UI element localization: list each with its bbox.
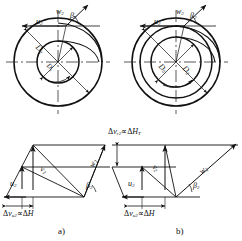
impeller-a-w2-label: w2 bbox=[56, 8, 64, 17]
velocity-triangle-a bbox=[4, 145, 110, 209]
triangle-b-edge-left bbox=[112, 167, 124, 197]
impeller-b-u2-label: u2 bbox=[154, 18, 160, 27]
triangle-a-u2-label: u2 bbox=[10, 180, 16, 189]
impeller-b-beta2-label: β2 bbox=[190, 12, 196, 21]
impeller-b-tip-radius bbox=[176, 26, 184, 62]
impeller-diagram-a bbox=[6, 5, 110, 114]
triangle-a-beta2-label: β2 bbox=[86, 182, 92, 191]
triangle-b-u2-label: u2 bbox=[128, 180, 134, 189]
impeller-a-beta2-label: β2 bbox=[70, 12, 76, 21]
impeller-b-blade-curve bbox=[176, 37, 215, 62]
velocity-triangle-b bbox=[112, 144, 238, 209]
panel-caption-b: b) bbox=[176, 226, 184, 236]
impeller-a-u2-label: u2 bbox=[36, 18, 42, 27]
radial-delta-label: Δvr2∝ΔHT bbox=[108, 128, 141, 137]
triangle-a-v2-vector bbox=[22, 167, 84, 197]
impeller-diagram-b bbox=[124, 5, 228, 114]
triangle-b-beta-arc bbox=[189, 184, 192, 192]
impeller-b-w2-label: w2 bbox=[176, 8, 184, 17]
triangle-b-delta-label: Δvu2∝ΔH bbox=[124, 210, 155, 219]
figure-root: u2 w2 β2 D2 D1 u2 w2 β2 D0 D2 u2 v2 w2 β… bbox=[0, 0, 242, 241]
triangle-a-delta-label: Δvu2∝ΔH bbox=[3, 210, 34, 219]
diagram-canvas bbox=[0, 0, 242, 241]
triangle-b-beta2-label: β2 bbox=[193, 182, 199, 191]
triangle-a-edge-left bbox=[6, 145, 33, 197]
triangle-a-beta-arc bbox=[92, 185, 96, 192]
panel-caption-a: a) bbox=[58, 226, 65, 236]
impeller-a-tip-radius bbox=[58, 26, 66, 62]
